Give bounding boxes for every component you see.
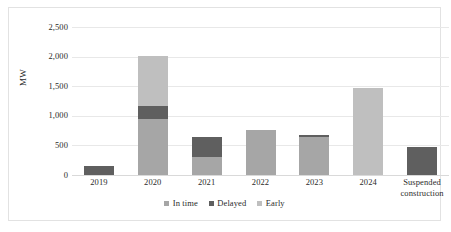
bar-segment[interactable] [246, 130, 276, 175]
bar-group[interactable] [84, 166, 114, 175]
x-tick-label: 2021 [180, 177, 234, 188]
legend-label: In time [173, 198, 198, 208]
gridline-0 [72, 175, 449, 176]
legend-label: Delayed [217, 198, 246, 208]
bar-group[interactable] [192, 137, 222, 175]
x-tick-label: Suspended construction [395, 177, 449, 198]
bar-segment[interactable] [192, 137, 222, 157]
y-axis-tick-labels: 05001,0001,5002,0002,500 [27, 27, 68, 175]
bar-group[interactable] [407, 147, 437, 175]
x-tick-label: 2022 [234, 177, 288, 188]
bar-segment[interactable] [353, 88, 383, 175]
legend-swatch-icon [209, 201, 214, 206]
chart-legend: In timeDelayedEarly [9, 198, 440, 208]
bar-group[interactable] [353, 88, 383, 175]
chart-container: MW 05001,0001,5002,0002,500 201920202021… [8, 7, 441, 221]
x-tick-label: 2019 [72, 177, 126, 188]
bar-group[interactable] [299, 135, 329, 175]
legend-item[interactable]: Delayed [209, 198, 247, 208]
y-tick-label: 500 [55, 140, 68, 150]
bar-segment[interactable] [84, 166, 114, 175]
bar-segment[interactable] [407, 147, 437, 175]
x-tick-label: 2023 [287, 177, 341, 188]
gridline-1000 [72, 116, 449, 117]
bar-segment[interactable] [192, 157, 222, 175]
y-tick-label: 2,500 [48, 22, 68, 32]
plot-area [72, 27, 449, 175]
y-tick-label: 0 [64, 170, 68, 180]
legend-item[interactable]: Early [257, 198, 284, 208]
y-tick-label: 1,000 [48, 110, 68, 120]
bar-segment[interactable] [299, 137, 329, 175]
x-tick-label: 2024 [341, 177, 395, 188]
legend-item[interactable]: In time [164, 198, 198, 208]
y-tick-label: 1,500 [48, 81, 68, 91]
bar-segment[interactable] [138, 119, 168, 175]
bar-segment[interactable] [138, 106, 168, 119]
gridline-2500 [72, 27, 449, 28]
y-tick-label: 2,000 [48, 51, 68, 61]
legend-label: Early [266, 198, 285, 208]
bar-segment[interactable] [138, 56, 168, 106]
bar-group[interactable] [246, 130, 276, 175]
gridline-1500 [72, 86, 449, 87]
legend-swatch-icon [164, 201, 169, 206]
bar-group[interactable] [138, 56, 168, 175]
x-tick-label: 2020 [126, 177, 180, 188]
legend-swatch-icon [257, 201, 262, 206]
gridline-2000 [72, 57, 449, 58]
